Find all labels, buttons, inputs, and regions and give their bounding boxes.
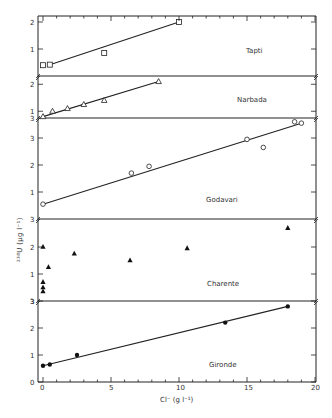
data-point <box>47 62 52 67</box>
fit-line <box>43 123 301 204</box>
panel-label-narbada: Narbada <box>237 96 267 104</box>
y-tick-label: 3 <box>30 135 34 143</box>
data-point <box>285 225 290 230</box>
panel-label-charente: Charente <box>207 280 239 288</box>
data-point <box>41 63 46 68</box>
data-point <box>147 164 152 169</box>
panel-label-tapti: Tapti <box>245 47 263 55</box>
data-point <box>72 251 77 256</box>
panel-narbada: 12 <box>30 79 318 122</box>
data-point <box>40 244 45 249</box>
panel-tapti: 12 <box>30 19 318 81</box>
data-point <box>299 121 304 126</box>
y-axis-label: ²³⁸U (μg l⁻¹) <box>16 217 24 262</box>
data-point <box>75 353 79 357</box>
data-point <box>223 320 227 324</box>
data-point <box>48 362 52 366</box>
panels: 1212123312301233 <box>30 19 318 387</box>
panel-label-gironde: Gironde <box>209 361 237 369</box>
panel-godavari: 1233 <box>30 115 318 223</box>
data-point <box>286 304 290 308</box>
y-tick-label: 3 <box>30 298 34 306</box>
x-tick-label-20: 20 <box>311 384 320 392</box>
y-tick-label: 2 <box>30 19 34 27</box>
fit-line <box>43 82 159 117</box>
data-point <box>102 51 107 56</box>
y-tick-label: 1 <box>30 46 34 54</box>
y-tick-label: 2 <box>30 244 34 252</box>
x-tick-label-10: 10 <box>176 384 185 392</box>
x-tick-label-15: 15 <box>244 384 253 392</box>
plot-frame <box>38 16 316 382</box>
x-axis-label: Cl⁻ (g l⁻¹) <box>160 396 194 404</box>
y-tick-label: 1 <box>30 271 34 279</box>
y-tick-label: 2 <box>30 162 34 170</box>
data-point <box>292 120 297 125</box>
panel-gironde: 01233 <box>30 298 316 387</box>
y-tick-label: 3 <box>30 216 34 224</box>
y-tick-label: 1 <box>30 189 34 197</box>
x-tick-label-0: 0 <box>40 384 44 392</box>
y-tick-label: 2 <box>30 325 34 333</box>
y-tick-label: 3 <box>30 115 34 123</box>
data-point <box>50 108 56 113</box>
fit-line <box>43 306 288 365</box>
panel-charente: 123 <box>30 216 318 305</box>
data-point <box>40 279 45 284</box>
data-point <box>129 171 134 176</box>
chart-figure: 1212123312301233 Tapti Narbada Godavari … <box>0 0 332 418</box>
data-point <box>185 245 190 250</box>
x-axis <box>43 16 315 382</box>
fit-line <box>50 22 179 65</box>
y-tick-label: 2 <box>30 81 34 89</box>
data-point <box>46 264 51 269</box>
panel-label-godavari: Godavari <box>206 196 238 204</box>
data-point <box>41 364 45 368</box>
data-point <box>41 202 46 207</box>
data-point <box>245 137 250 142</box>
data-point <box>127 258 132 263</box>
x-tick-label-5: 5 <box>109 384 113 392</box>
y-tick-label: 0 <box>30 379 34 387</box>
data-point <box>156 79 162 84</box>
y-tick-label: 1 <box>30 352 34 360</box>
data-point <box>261 145 266 150</box>
